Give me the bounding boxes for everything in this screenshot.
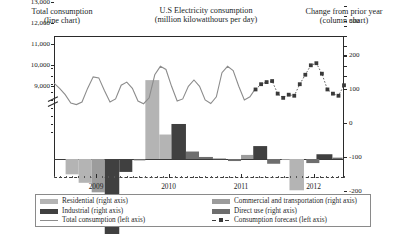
x-axis-minor-tick	[259, 176, 260, 178]
legend-item[interactable]: Total consumption (left axis)	[40, 216, 208, 225]
legend-item[interactable]: Consumption forecast (left axis)	[212, 216, 368, 225]
x-axis-minor-tick	[247, 176, 248, 178]
x-axis-minor-tick	[84, 176, 85, 178]
right-axis-tick-label: -100	[349, 154, 362, 161]
x-axis-minor-tick	[102, 176, 103, 178]
legend-item-label: Commercial and transportation (right axi…	[234, 197, 357, 206]
x-axis-tick-label: 2012	[306, 182, 321, 191]
x-axis-minor-tick	[90, 176, 91, 178]
forecast-marker	[254, 88, 258, 92]
x-axis-minor-tick	[133, 176, 134, 178]
legend-swatch-icon	[212, 199, 230, 204]
x-axis-minor-tick	[253, 176, 254, 178]
header-right-line1: Change from prior year	[286, 7, 402, 16]
x-axis-minor-tick	[193, 176, 194, 178]
right-axis-minor-tick	[344, 6, 347, 7]
forecast-marker	[298, 82, 302, 86]
x-axis-minor-tick	[296, 176, 297, 178]
forecast-marker	[281, 96, 285, 100]
left-axis-minor-tick	[51, 132, 54, 133]
left-axis-minor-tick	[51, 84, 54, 85]
x-axis-minor-tick	[205, 176, 206, 178]
legend-item[interactable]: Direct use (right axis)	[212, 207, 368, 216]
x-axis-minor-tick	[114, 176, 115, 178]
left-axis-tick-label: 9,000	[34, 83, 50, 90]
x-axis-minor-tick	[308, 176, 309, 178]
forecast-marker	[314, 61, 318, 65]
x-axis-minor-tick	[108, 176, 109, 178]
x-axis-minor-tick	[223, 176, 224, 178]
line-series-layer	[54, 36, 344, 178]
right-axis-tick-label: 0	[349, 120, 353, 127]
right-axis-minor-tick	[344, 26, 347, 27]
right-axis-minor-tick	[344, 56, 347, 57]
forecast-marker	[342, 83, 346, 87]
x-axis-minor-tick	[229, 176, 230, 178]
x-axis-minor-tick	[211, 176, 212, 178]
x-axis-tick	[241, 174, 242, 178]
left-axis-minor-tick	[51, 116, 54, 117]
x-axis-minor-tick	[278, 176, 279, 178]
x-axis-minor-tick	[60, 176, 61, 178]
x-axis-minor-tick	[338, 176, 339, 178]
x-axis-minor-tick	[145, 176, 146, 178]
x-axis-minor-tick	[157, 176, 158, 178]
x-axis-minor-tick	[326, 176, 327, 178]
x-axis-tick-label: 2010	[161, 182, 176, 191]
legend-item-label: Residential (right axis)	[62, 197, 128, 206]
x-axis-minor-tick	[290, 176, 291, 178]
forecast-marker	[337, 94, 341, 98]
x-axis-minor-tick	[151, 176, 152, 178]
legend: Residential (right axis)Industrial (righ…	[35, 194, 371, 227]
forecast-line	[256, 63, 344, 98]
forecast-marker	[287, 93, 291, 97]
header-left: Total consumption (line chart)	[8, 7, 116, 25]
legend-swatch-icon	[40, 199, 58, 204]
forecast-marker	[259, 82, 263, 86]
x-axis-minor-tick	[320, 176, 321, 178]
x-axis-minor-tick	[302, 176, 303, 178]
x-axis-minor-tick	[332, 176, 333, 178]
x-axis-tick	[169, 174, 170, 178]
legend-item-label: Total consumption (left axis)	[62, 216, 145, 225]
x-axis-minor-tick	[272, 176, 273, 178]
x-axis-minor-tick	[217, 176, 218, 178]
legend-item-label: Consumption forecast (left axis)	[234, 216, 327, 225]
forecast-marker	[303, 73, 307, 77]
legend-line-icon	[40, 218, 58, 223]
forecast-marker	[292, 94, 296, 98]
forecast-marker	[326, 88, 330, 92]
x-axis-minor-tick	[139, 176, 140, 178]
x-axis-minor-tick	[265, 176, 266, 178]
legend-item[interactable]: Commercial and transportation (right axi…	[212, 197, 368, 206]
x-axis-minor-tick	[66, 176, 67, 178]
left-axis-tick-label: 11,000	[31, 41, 50, 48]
right-axis-tick-label: 300	[349, 18, 360, 25]
x-axis-tick-label: 2011	[234, 182, 249, 191]
left-axis-minor-tick	[51, 76, 54, 77]
forecast-marker	[265, 80, 269, 84]
left-axis-tick	[51, 23, 54, 24]
left-axis-tick-label: 10,000	[31, 62, 50, 69]
legend-item[interactable]: Industrial (right axis)	[40, 207, 208, 216]
x-axis-tick-label: 2009	[89, 182, 104, 191]
left-axis-tick	[51, 86, 54, 87]
chart-figure: Total consumption (line chart) U.S Elect…	[0, 0, 404, 234]
right-axis-tick	[344, 123, 347, 124]
right-axis-minor-tick	[344, 16, 347, 17]
chart-title: U.S Electricity consumption (million kil…	[126, 6, 286, 24]
legend-swatch-icon	[212, 209, 230, 214]
legend-item[interactable]: Residential (right axis)	[40, 197, 208, 206]
forecast-marker	[331, 92, 335, 96]
x-axis-minor-tick	[54, 176, 55, 178]
right-axis-minor-tick	[344, 76, 347, 77]
x-axis-minor-tick	[187, 176, 188, 178]
x-axis-tick	[314, 174, 315, 178]
left-axis-tick	[51, 2, 54, 3]
right-axis-tick	[344, 191, 347, 192]
x-axis-minor-tick	[78, 176, 79, 178]
right-axis-tick-label: 200	[349, 52, 360, 59]
x-axis-minor-tick	[163, 176, 164, 178]
legend-column-2: Commercial and transportation (right axi…	[212, 197, 368, 224]
x-axis-minor-tick	[72, 176, 73, 178]
